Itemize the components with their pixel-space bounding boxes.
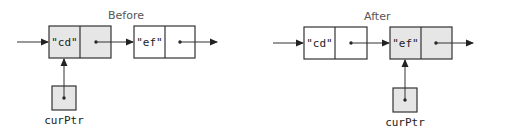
curptr-variable: curPtr [385, 60, 425, 129]
after-panel: After "cd" "ef" curPtr [273, 10, 473, 129]
node-value: "ef" [392, 37, 419, 50]
after-title: After [364, 10, 391, 23]
curptr-variable: curPtr [44, 59, 84, 127]
linked-list-diagram: Before "cd" "ef" curPtr After [0, 0, 506, 138]
before-title: Before [108, 9, 144, 22]
before-panel: Before "cd" "ef" curPtr [17, 9, 217, 127]
node-value: "cd" [306, 37, 333, 50]
node-value: "ef" [136, 36, 163, 49]
node-value: "cd" [51, 36, 78, 49]
pointer-label: curPtr [385, 116, 425, 129]
pointer-label: curPtr [44, 114, 84, 127]
